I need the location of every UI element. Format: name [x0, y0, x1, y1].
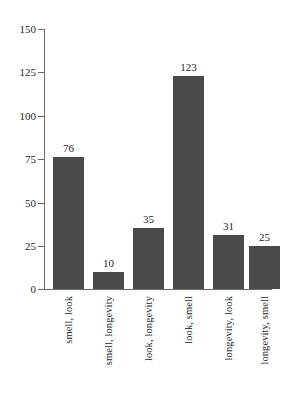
y-tick-text: 25: [25, 240, 36, 252]
bar-longevity-smell: [249, 246, 280, 289]
bar-value-smell-longevity: 10: [93, 258, 124, 269]
bar-smell-look: [53, 157, 84, 289]
x-category-slot-0: smell, look: [52, 296, 86, 394]
bar-value-text: 35: [143, 213, 154, 225]
bar-value-longevity-look: 31: [213, 221, 244, 232]
y-tick-label-150: 150: [0, 24, 36, 35]
y-tick-label-75: 75: [0, 154, 36, 165]
x-category-slot-5: longevity, smell: [248, 296, 282, 394]
x-category-slot-4: longevity, look: [212, 296, 246, 394]
y-tick-label-100: 100: [0, 111, 36, 122]
bar-value-look-longevity: 35: [133, 214, 164, 225]
x-category-label-smell-longevity: smell, longevity: [104, 296, 115, 365]
bar-value-longevity-smell: 25: [249, 232, 280, 243]
y-tick-label-125: 125: [0, 67, 36, 78]
bar-chart: 150 125 100 75 50 25 0 76 10 35 123: [0, 0, 294, 397]
bar-value-text: 76: [63, 142, 74, 154]
x-category-slot-2: look, longevity: [132, 296, 166, 394]
bar-longevity-look: [213, 235, 244, 289]
x-category-slot-1: smell, longevity: [92, 296, 126, 394]
x-category-slot-3: look, smell: [172, 296, 206, 394]
y-tick-text: 150: [20, 23, 37, 35]
bar-value-look-smell: 123: [173, 62, 204, 73]
bar-value-text: 10: [103, 257, 114, 269]
x-axis-line: [44, 289, 272, 290]
y-tick-label-25: 25: [0, 241, 36, 252]
y-tick-text: 75: [25, 153, 36, 165]
x-category-label-longevity-smell: longevity, smell: [260, 296, 271, 365]
y-tick-label-50: 50: [0, 198, 36, 209]
x-category-label-longevity-look: longevity, look: [224, 296, 235, 360]
bar-look-smell: [173, 76, 204, 289]
bar-value-smell-look: 76: [53, 143, 84, 154]
y-tick-text: 50: [25, 197, 36, 209]
y-tick-text: 100: [20, 110, 37, 122]
bar-look-longevity: [133, 228, 164, 289]
bar-smell-longevity: [93, 272, 124, 289]
y-tick-label-0: 0: [0, 284, 36, 295]
bar-value-text: 25: [259, 231, 270, 243]
bar-value-text: 123: [180, 61, 197, 73]
bar-value-text: 31: [223, 220, 234, 232]
y-tick-text: 125: [20, 66, 37, 78]
y-tick-text: 0: [31, 283, 37, 295]
y-axis-line: [44, 29, 45, 290]
x-category-label-look-longevity: look, longevity: [144, 296, 155, 361]
x-category-label-smell-look: smell, look: [64, 296, 75, 344]
x-category-label-look-smell: look, smell: [184, 296, 195, 344]
